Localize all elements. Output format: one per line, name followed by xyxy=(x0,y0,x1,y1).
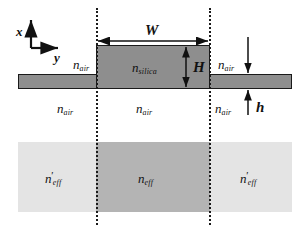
index-subscript: eff xyxy=(53,178,62,187)
slab-right-arm xyxy=(208,74,292,89)
axis-label-y: y xyxy=(54,50,60,66)
index-subscript: air xyxy=(222,108,232,117)
dimension-label-height: H xyxy=(193,59,205,76)
index-subscript: air xyxy=(225,64,235,73)
index-subscript: eff xyxy=(145,178,154,187)
index-subscript: silica xyxy=(139,67,158,76)
index-label-n-silica: nsilica xyxy=(132,59,157,76)
index-label-n-eff-prime-right: n'eff xyxy=(240,170,256,187)
index-subscript: air xyxy=(64,108,74,117)
index-label-n-air-bottom-center: nair xyxy=(136,100,152,117)
index-subscript: air xyxy=(143,108,153,117)
guide-line-left xyxy=(96,8,98,225)
dimension-label-thickness: h xyxy=(256,99,264,116)
index-subscript: eff xyxy=(248,178,257,187)
axis-label-x: x xyxy=(16,24,23,40)
index-label-n-eff-prime-left: n'eff xyxy=(45,170,61,187)
figure-canvas: x y W H h nair nair nair nair nair nsili… xyxy=(0,0,306,239)
slab-left-arm xyxy=(18,74,98,89)
index-label-n-air-top-left: nair xyxy=(73,56,89,73)
index-subscript: air xyxy=(80,64,90,73)
guide-line-right xyxy=(209,8,211,225)
index-label-n-eff-center: neff xyxy=(138,170,153,187)
index-label-n-air-bottom-right: nair xyxy=(215,100,231,117)
dimension-label-width: W xyxy=(145,22,158,39)
index-label-n-air-bottom-left: nair xyxy=(57,100,73,117)
index-label-n-air-top-right: nair xyxy=(218,56,234,73)
